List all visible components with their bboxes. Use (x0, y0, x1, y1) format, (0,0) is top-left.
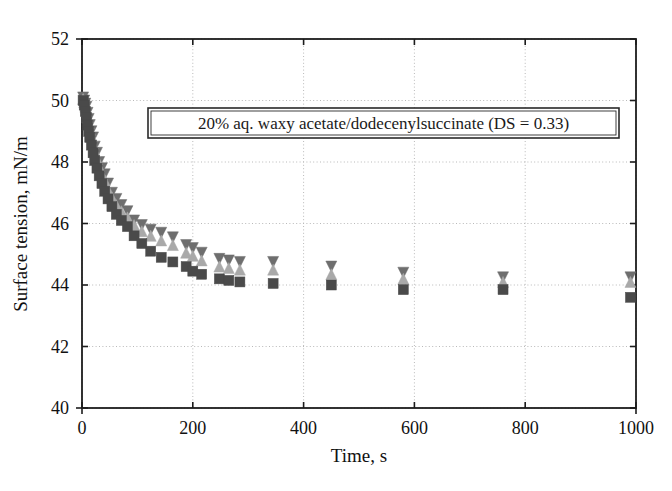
y-tick-label: 42 (51, 337, 69, 357)
x-tick-label: 400 (290, 418, 317, 438)
data-point-run-3 (197, 269, 207, 279)
data-point-run-3 (188, 266, 198, 276)
y-tick-label: 44 (51, 275, 69, 295)
data-point-run-3 (625, 292, 635, 302)
y-tick-label: 46 (51, 214, 69, 234)
data-point-run-3 (122, 222, 132, 232)
data-point-run-3 (326, 280, 336, 290)
data-point-run-3 (156, 252, 166, 262)
y-tick-label: 50 (51, 91, 69, 111)
x-tick-label: 600 (401, 418, 428, 438)
surface-tension-chart: 0200400600800100040424446485052 20% aq. … (0, 0, 672, 491)
data-point-run-3 (235, 277, 245, 287)
y-tick-label: 40 (51, 398, 69, 418)
chart-page: 0200400600800100040424446485052 20% aq. … (0, 0, 672, 491)
data-point-run-3 (498, 285, 508, 295)
y-axis-title: Surface tension, mN/m (10, 136, 31, 312)
chart-background (0, 0, 672, 491)
x-axis-title: Time, s (331, 445, 387, 466)
x-tick-label: 0 (78, 418, 87, 438)
data-point-run-3 (268, 278, 278, 288)
y-tick-label: 52 (51, 29, 69, 49)
y-tick-label: 48 (51, 152, 69, 172)
data-point-run-3 (214, 274, 224, 284)
data-point-run-3 (398, 285, 408, 295)
annotation-box: 20% aq. waxy acetate/dodecenylsuccinate … (148, 108, 619, 138)
data-point-run-3 (146, 246, 156, 256)
data-point-run-3 (168, 257, 178, 267)
x-tick-label: 800 (512, 418, 539, 438)
x-tick-label: 200 (179, 418, 206, 438)
data-point-run-3 (224, 275, 234, 285)
annotation-label: 20% aq. waxy acetate/dodecenylsuccinate … (198, 114, 569, 133)
data-point-run-3 (137, 238, 147, 248)
x-tick-label: 1000 (618, 418, 654, 438)
